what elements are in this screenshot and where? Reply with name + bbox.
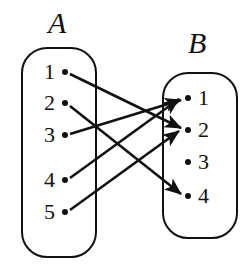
element-dot-a2 <box>62 100 68 106</box>
element-label-b3: 3 <box>198 151 209 173</box>
element-label-a5: 5 <box>44 201 55 223</box>
element-label-b2: 2 <box>198 119 209 141</box>
element-label-a2: 2 <box>44 92 55 114</box>
element-label-a1: 1 <box>44 61 55 83</box>
element-dot-a1 <box>62 69 68 75</box>
set-a-label: A <box>48 8 66 38</box>
element-dot-b4 <box>185 193 191 199</box>
element-label-b4: 4 <box>198 185 209 207</box>
set-b-label: B <box>188 28 206 58</box>
mapping-diagram: A B 12345 1234 <box>0 0 252 269</box>
element-dot-a3 <box>62 132 68 138</box>
element-dot-b3 <box>185 159 191 165</box>
element-dot-b1 <box>185 95 191 101</box>
element-dot-a4 <box>62 177 68 183</box>
element-label-b1: 1 <box>198 87 209 109</box>
element-dot-a5 <box>62 209 68 215</box>
element-label-a4: 4 <box>44 169 55 191</box>
element-dot-b2 <box>185 127 191 133</box>
set-a-box <box>21 47 97 258</box>
element-label-a3: 3 <box>44 124 55 146</box>
